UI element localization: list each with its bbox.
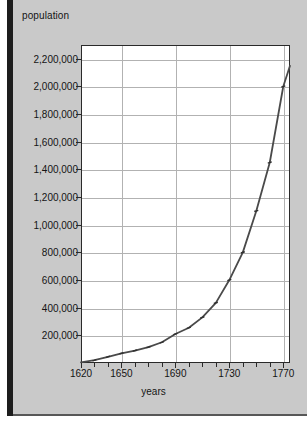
- x-axis-minor-tick: [256, 363, 257, 367]
- y-axis-tick-mark: [76, 197, 81, 198]
- y-axis-tick-mark: [76, 280, 81, 281]
- x-axis-tick-mark: [283, 363, 284, 368]
- x-axis-minor-tick: [243, 363, 244, 367]
- x-axis-minor-tick: [216, 363, 217, 367]
- y-axis-tick-mark: [76, 225, 81, 226]
- y-axis-tick-mark: [76, 59, 81, 60]
- y-axis-tick-label: 1,400,000: [4, 164, 78, 175]
- x-axis-tick-mark: [175, 363, 176, 368]
- y-axis-tick-label: 1,200,000: [4, 192, 78, 203]
- x-axis-minor-tick: [135, 363, 136, 367]
- population-curve: [81, 45, 290, 363]
- data-point-marker: [227, 279, 231, 280]
- data-point-marker: [173, 333, 177, 334]
- data-point-marker: [241, 252, 245, 253]
- x-axis-minor-tick: [202, 363, 203, 367]
- data-point-marker: [200, 317, 204, 318]
- y-axis-tick-labels: 200,000400,000600,000800,0001,000,0001,2…: [0, 0, 78, 423]
- population-line-chart: population 200,000400,000600,000800,0001…: [0, 0, 307, 423]
- y-axis-tick-label: 200,000: [4, 330, 78, 341]
- y-axis-tick-mark: [76, 142, 81, 143]
- y-axis-tick-label: 1,600,000: [4, 136, 78, 147]
- y-axis-tick-label: 800,000: [4, 247, 78, 258]
- y-axis-tick-label: 400,000: [4, 302, 78, 313]
- x-axis-tick-mark: [229, 363, 230, 368]
- y-axis-tick-label: 2,200,000: [4, 53, 78, 64]
- y-axis-tick-mark: [76, 335, 81, 336]
- x-axis-tick-label: 1770: [272, 368, 294, 379]
- data-point-marker: [281, 86, 285, 87]
- x-axis-minor-tick: [162, 363, 163, 367]
- data-point-marker: [254, 210, 258, 211]
- y-axis-tick-mark: [76, 114, 81, 115]
- page: population 200,000400,000600,000800,0001…: [0, 0, 307, 423]
- x-axis-tick-label: 1690: [164, 368, 186, 379]
- x-axis-title: years: [0, 386, 307, 397]
- y-axis-tick-mark: [76, 308, 81, 309]
- x-axis-tick-label: 1650: [110, 368, 132, 379]
- data-point-marker: [214, 302, 218, 303]
- y-axis-tick-label: 1,800,000: [4, 109, 78, 120]
- x-axis-tick-mark: [121, 363, 122, 368]
- x-axis-minor-tick: [270, 363, 271, 367]
- y-axis-tick-mark: [76, 169, 81, 170]
- data-point-marker: [187, 327, 191, 328]
- x-axis-minor-tick: [148, 363, 149, 367]
- y-axis-tick-label: 1,000,000: [4, 219, 78, 230]
- y-axis-tick-label: 2,000,000: [4, 81, 78, 92]
- y-axis-tick-mark: [76, 86, 81, 87]
- y-axis-tick-label: 600,000: [4, 275, 78, 286]
- x-axis-minor-tick: [94, 363, 95, 367]
- x-axis-tick-label: 1620: [70, 368, 92, 379]
- x-axis-tick-label: 1730: [218, 368, 240, 379]
- x-axis-minor-tick: [189, 363, 190, 367]
- x-axis-tick-mark: [81, 363, 82, 368]
- x-axis-minor-tick: [108, 363, 109, 367]
- data-point-marker: [268, 162, 272, 163]
- y-axis-tick-mark: [76, 252, 81, 253]
